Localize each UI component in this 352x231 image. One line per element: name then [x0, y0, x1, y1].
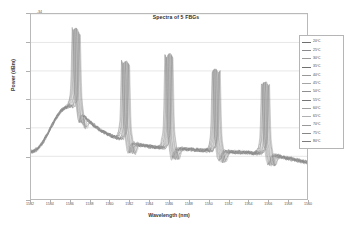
- legend-item[interactable]: 75ºC: [301, 129, 342, 137]
- legend-item-label: 75ºC: [313, 132, 320, 135]
- legend-item[interactable]: 20ºC: [301, 38, 342, 46]
- legend-item[interactable]: 60ºC: [301, 104, 342, 112]
- x-tick-mark: [229, 200, 230, 204]
- legend-line-icon: [302, 141, 311, 142]
- x-axis-title: Wavelength (nm): [30, 212, 308, 218]
- y-axis-title: Power (dBm): [10, 35, 16, 115]
- legend-item[interactable]: 50ºC: [301, 88, 342, 96]
- legend-line-icon: [302, 75, 311, 76]
- x-tick-mark: [30, 200, 31, 204]
- chart-title: Spectra of 5 FBGs: [0, 14, 352, 20]
- x-tick-mark: [109, 200, 110, 204]
- x-tick-mark: [169, 200, 170, 204]
- legend-line-icon: [302, 58, 311, 59]
- x-tick-mark: [70, 200, 71, 204]
- legend-item[interactable]: 30ºC: [301, 55, 342, 63]
- legend-line-icon: [302, 133, 311, 134]
- chart-container: Spectra of 5 FBGs Power (dBm) Wavelength…: [0, 0, 352, 231]
- legend-item-label: 20ºC: [313, 40, 320, 43]
- legend-item[interactable]: 25ºC: [301, 46, 342, 54]
- legend-item[interactable]: 45ºC: [301, 79, 342, 87]
- legend-line-icon: [302, 42, 311, 43]
- legend-item[interactable]: 55ºC: [301, 96, 342, 104]
- legend-item-label: 70ºC: [313, 123, 320, 126]
- legend-line-icon: [302, 125, 311, 126]
- legend-line-icon: [302, 83, 311, 84]
- legend-line-icon: [302, 100, 311, 101]
- legend-item-label: 25ºC: [313, 49, 320, 52]
- legend-line-icon: [302, 108, 311, 109]
- legend[interactable]: 20ºC25ºC30ºC35ºC40ºC45ºC50ºC55ºC60ºC65ºC…: [299, 35, 344, 149]
- legend-item-label: 35ºC: [313, 65, 320, 68]
- legend-item[interactable]: 35ºC: [301, 63, 342, 71]
- x-tick-mark: [50, 200, 51, 204]
- x-tick-mark: [308, 200, 309, 204]
- x-tick-mark: [189, 200, 190, 204]
- legend-item-label: 65ºC: [313, 115, 320, 118]
- legend-item-label: 55ºC: [313, 99, 320, 102]
- legend-item-label: 60ºC: [313, 107, 320, 110]
- legend-line-icon: [302, 116, 311, 117]
- x-tick-mark: [129, 200, 130, 204]
- spectra-traces: [31, 14, 307, 199]
- legend-line-icon: [302, 67, 311, 68]
- plot-area: [30, 13, 308, 200]
- x-tick-mark: [288, 200, 289, 204]
- x-tick-mark: [209, 200, 210, 204]
- x-tick-mark: [248, 200, 249, 204]
- x-tick-mark: [90, 200, 91, 204]
- legend-line-icon: [302, 50, 311, 51]
- x-tick-mark: [268, 200, 269, 204]
- legend-item-label: 80ºC: [313, 140, 320, 143]
- x-tick-mark: [149, 200, 150, 204]
- legend-line-icon: [302, 91, 311, 92]
- legend-item[interactable]: 70ºC: [301, 121, 342, 129]
- legend-item-label: 30ºC: [313, 57, 320, 60]
- legend-item[interactable]: 65ºC: [301, 113, 342, 121]
- legend-item[interactable]: 40ºC: [301, 71, 342, 79]
- legend-item-label: 50ºC: [313, 90, 320, 93]
- legend-item[interactable]: 80ºC: [301, 138, 342, 146]
- legend-item-label: 40ºC: [313, 74, 320, 77]
- legend-item-label: 45ºC: [313, 82, 320, 85]
